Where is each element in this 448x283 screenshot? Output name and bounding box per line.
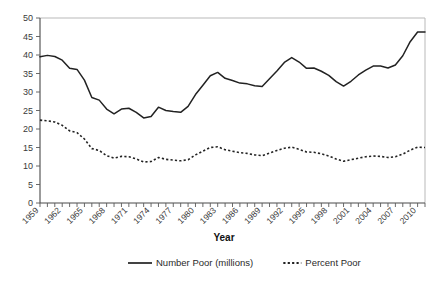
x-tick-label-1965: 1965 (64, 205, 85, 226)
x-tick-label-1968: 1968 (87, 205, 108, 226)
x-tick-label-text: 1992 (264, 205, 285, 226)
x-tick-label-1971: 1971 (109, 205, 130, 226)
x-axis-tick-labels: 1959196219651968197119741977198019831986… (20, 205, 418, 226)
x-tick-label-text: 1983 (198, 205, 219, 226)
y-tick-label-10: 10 (23, 161, 33, 171)
series-line-number-poor (40, 32, 425, 118)
x-tick-label-text: 1995 (287, 205, 308, 226)
x-tick-label-text: 1989 (242, 205, 263, 226)
x-tick-label-text: 1980 (175, 205, 196, 226)
x-tick-label-1992: 1992 (264, 205, 285, 226)
x-tick-label-text: 2001 (331, 205, 352, 226)
x-tick-label-text: 1998 (309, 205, 330, 226)
y-axis-tick-labels: 05101520253035404550 (23, 13, 33, 208)
x-tick-label-text: 1986 (220, 205, 241, 226)
series-layer (40, 32, 425, 162)
x-tick-label-text: 1962 (42, 205, 63, 226)
x-tick-label-text: 2010 (398, 205, 419, 226)
x-tick-label-text: 1968 (87, 205, 108, 226)
y-tick-label-20: 20 (23, 124, 33, 134)
x-tick-label-1998: 1998 (309, 205, 330, 226)
series-line-percent-poor (40, 120, 425, 162)
legend-label-number-poor: Number Poor (millions) (156, 257, 253, 268)
x-tick-label-1995: 1995 (287, 205, 308, 226)
y-tick-label-35: 35 (23, 69, 33, 79)
y-tick-label-45: 45 (23, 32, 33, 42)
x-tick-label-1962: 1962 (42, 205, 63, 226)
y-tick-label-50: 50 (23, 13, 33, 23)
x-tick-label-1980: 1980 (175, 205, 196, 226)
x-tick-label-text: 2007 (375, 205, 396, 226)
x-tick-label-text: 1959 (20, 205, 41, 226)
x-tick-label-text: 1977 (153, 205, 174, 226)
x-tick-label-text: 1971 (109, 205, 130, 226)
plot-frame-light (40, 18, 425, 203)
legend-label-percent-poor: Percent Poor (305, 257, 360, 268)
x-tick-label-text: 2004 (353, 205, 374, 226)
x-tick-label-1983: 1983 (198, 205, 219, 226)
poverty-line-chart: 05101520253035404550 1959196219651968197… (0, 0, 448, 283)
plot-axes (40, 18, 425, 203)
chart-canvas: 05101520253035404550 1959196219651968197… (0, 0, 448, 283)
x-tick-label-text: 1974 (131, 205, 152, 226)
x-tick-label-2004: 2004 (353, 205, 374, 226)
x-tick-label-2007: 2007 (375, 205, 396, 226)
x-tick-label-1974: 1974 (131, 205, 152, 226)
y-tick-label-30: 30 (23, 87, 33, 97)
x-tick-label-1959: 1959 (20, 205, 41, 226)
y-axis-ticks (36, 18, 40, 203)
x-tick-label-text: 1965 (64, 205, 85, 226)
y-tick-label-25: 25 (23, 106, 33, 116)
x-tick-label-2010: 2010 (398, 205, 419, 226)
y-tick-label-40: 40 (23, 50, 33, 60)
x-tick-label-2001: 2001 (331, 205, 352, 226)
x-tick-label-1977: 1977 (153, 205, 174, 226)
x-tick-label-1986: 1986 (220, 205, 241, 226)
y-tick-label-5: 5 (28, 180, 33, 190)
x-tick-label-1989: 1989 (242, 205, 263, 226)
chart-legend: Number Poor (millions)Percent Poor (128, 257, 361, 268)
y-tick-label-15: 15 (23, 143, 33, 153)
x-axis-title: Year (213, 232, 234, 243)
